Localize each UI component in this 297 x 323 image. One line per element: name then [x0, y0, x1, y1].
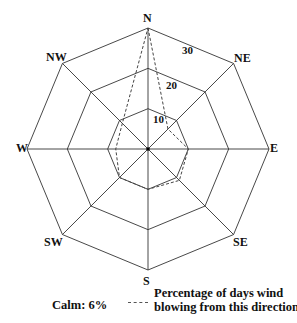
legend-line-2: blowing from this direction [154, 300, 297, 314]
label-w: W [16, 142, 28, 154]
direction-axes [27, 28, 269, 270]
label-s: S [143, 275, 150, 287]
label-nw: NW [46, 51, 67, 63]
legend-dashed-line [128, 302, 148, 303]
axis-ne [148, 63, 234, 149]
center-dot [146, 147, 150, 151]
ring-label-20: 20 [166, 79, 177, 91]
label-ne: NE [234, 52, 251, 64]
wind-data-polygon [116, 28, 189, 189]
label-n: N [143, 12, 152, 24]
legend-text: Percentage of days wind blowing from thi… [154, 286, 297, 314]
label-e: E [270, 142, 278, 154]
axis-se [148, 149, 234, 235]
legend-line-1: Percentage of days wind [154, 286, 297, 300]
label-sw: SW [44, 236, 63, 248]
ring-label-10: 10 [153, 113, 164, 125]
axis-sw [62, 149, 148, 235]
ring-label-30: 30 [182, 44, 193, 56]
label-se: SE [233, 236, 248, 248]
calm-annotation: Calm: 6% [52, 298, 107, 313]
